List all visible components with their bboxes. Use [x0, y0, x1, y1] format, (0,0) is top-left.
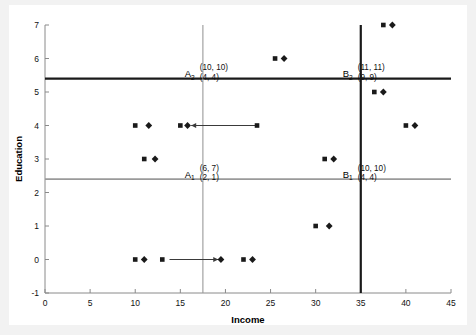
data-point-square	[241, 257, 246, 262]
data-point-diamond	[184, 122, 191, 129]
y-tick-label: 3	[34, 154, 39, 164]
quadrant-label-A2: A2	[185, 68, 195, 81]
data-point-square	[273, 56, 278, 61]
x-tick-label: 15	[176, 298, 186, 308]
quadrant-label-B1-subscript: 1	[349, 174, 353, 181]
data-point-diamond	[330, 156, 337, 163]
quadrant-label-B2-value: (11, 11)	[358, 63, 385, 72]
x-tick-label: 5	[88, 298, 93, 308]
quadrant-label-B1-value: (10, 10)	[358, 164, 386, 173]
y-tick-label: 5	[34, 87, 39, 97]
data-point-diamond	[326, 223, 333, 230]
quadrant-label-B2-subscript: 2	[349, 74, 353, 81]
x-axis-title: Income	[231, 314, 264, 324]
y-tick-label: 1	[34, 221, 39, 231]
x-tick-label: 25	[266, 298, 276, 308]
data-point-square	[322, 157, 327, 162]
y-tick-label: 0	[34, 255, 39, 265]
plot-panel: 051015202530354045-101234567 A2(10, 10)(…	[10, 6, 466, 324]
x-tick-label: 30	[311, 298, 321, 308]
x-tick-label: 10	[130, 298, 140, 308]
data-point-square	[404, 123, 409, 128]
reference-lines-group	[45, 25, 451, 293]
y-tick-label: 7	[34, 20, 39, 30]
y-tick-label: 2	[34, 188, 39, 198]
data-point-square	[372, 90, 377, 95]
quadrant-label-A2-value: (4, 4)	[200, 73, 219, 82]
x-tick-label: 35	[356, 298, 366, 308]
quadrant-label-B1: B1	[343, 169, 353, 182]
quadrant-label-B2: B2	[343, 68, 353, 81]
quadrant-label-A2-value: (10, 10)	[200, 63, 228, 72]
data-point-diamond	[152, 156, 159, 163]
x-tick-label: 20	[221, 298, 231, 308]
data-point-square	[133, 257, 138, 262]
x-tick-label: 0	[43, 298, 48, 308]
arrow-education-left-head	[191, 123, 196, 128]
data-point-square	[255, 123, 260, 128]
quadrant-label-A2-subscript: 2	[191, 74, 195, 81]
annotations-group: A2(10, 10)(4, 4)A1(6, 7)(2, 1)B2(11, 11)…	[185, 63, 386, 182]
data-point-diamond	[218, 256, 225, 263]
data-point-diamond	[249, 256, 256, 263]
axis-titles-group: IncomeEducation	[13, 136, 265, 324]
quadrant-label-B1-value: (4, 4)	[358, 173, 377, 182]
data-point-square	[133, 123, 138, 128]
scatter-plot-svg: 051015202530354045-101234567 A2(10, 10)(…	[10, 6, 466, 324]
x-tick-label: 45	[446, 298, 456, 308]
quadrant-label-A1-subscript: 1	[191, 174, 195, 181]
quadrant-label-B2-value: (9, 9)	[358, 73, 377, 82]
y-tick-label: -1	[31, 288, 39, 298]
data-point-square	[142, 157, 147, 162]
quadrant-label-A1-value: (2, 1)	[200, 173, 219, 182]
data-point-diamond	[380, 89, 387, 96]
figure-container: 051015202530354045-101234567 A2(10, 10)(…	[0, 0, 476, 335]
data-point-diamond	[145, 122, 152, 129]
data-point-square	[313, 224, 318, 229]
arrows-group	[170, 123, 258, 262]
data-point-diamond	[141, 256, 148, 263]
y-axis-title: Education	[13, 136, 24, 182]
data-point-square	[160, 257, 165, 262]
axes-group: 051015202530354045-101234567	[31, 20, 456, 308]
data-point-diamond	[389, 22, 396, 29]
quadrant-label-A1: A1	[185, 169, 195, 182]
x-tick-label: 40	[401, 298, 411, 308]
data-point-diamond	[412, 122, 419, 129]
y-tick-label: 4	[34, 121, 39, 131]
data-point-diamond	[281, 55, 288, 62]
y-tick-label: 6	[34, 54, 39, 64]
quadrant-label-A1-value: (6, 7)	[200, 164, 219, 173]
data-points-group	[133, 22, 418, 263]
data-point-square	[178, 123, 183, 128]
arrow-income-right-head	[213, 257, 218, 262]
data-point-square	[381, 23, 386, 28]
